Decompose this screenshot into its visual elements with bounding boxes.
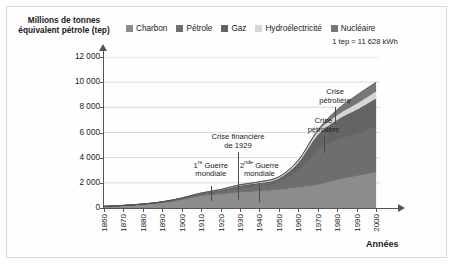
legend-swatch-icon: [255, 25, 262, 32]
x-tick-mark: [123, 208, 124, 212]
annotation-leader-line: [259, 186, 260, 202]
y-tick-label: 8 000: [80, 102, 101, 111]
y-tick-mark: [100, 107, 104, 108]
x-tick-mark: [162, 208, 163, 212]
chart-figure: Millions de tonnes équivalent pétrole (t…: [0, 0, 455, 267]
legend-item-p-trole: Pétrole: [176, 24, 212, 33]
annotation-leader-line: [238, 152, 239, 200]
y-tick-label: 4 000: [80, 153, 101, 162]
annotation-line-2: pétrolière: [308, 126, 340, 135]
annotation-leader-line: [211, 186, 212, 201]
x-tick-label: 1960: [294, 214, 303, 232]
y-tick-label: 6 000: [80, 128, 101, 137]
legend-item-label: Gaz: [231, 24, 246, 33]
y-tick-mark: [100, 133, 104, 134]
x-tick-label: 1980: [333, 214, 342, 232]
legend-item-nucl-aire: Nucléaire: [331, 24, 376, 33]
tep-conversion-note: 1 tep = 11 628 kWh: [300, 37, 430, 46]
x-tick-label: 1920: [217, 214, 226, 232]
x-tick-mark: [143, 208, 144, 212]
x-tick-mark: [298, 208, 299, 212]
x-tick-mark: [376, 208, 377, 212]
y-axis-unit: (tep): [92, 25, 110, 35]
annotation-line-2: mondiale: [240, 170, 279, 179]
annotation-line-2: pétrolière: [319, 97, 351, 106]
legend-swatch-icon: [331, 25, 338, 32]
x-tick-mark: [182, 208, 183, 212]
y-tick-label: 2 000: [80, 178, 101, 187]
annotation-crise-1929: Crise financièrede 1929: [212, 133, 265, 150]
legend-item-label: Charbon: [136, 24, 167, 33]
legend-item-gaz: Gaz: [221, 24, 246, 33]
y-tick-mark: [100, 57, 104, 58]
x-tick-label: 1870: [119, 214, 128, 232]
legend-item-label: Pétrole: [186, 24, 212, 33]
annotation-crise-petroliere-2: Crisepétrolière: [319, 88, 351, 105]
x-tick-mark: [240, 208, 241, 212]
y-tick-mark: [100, 82, 104, 83]
x-tick-label: 2000: [372, 214, 381, 232]
annotation-leader-line: [324, 136, 325, 153]
x-tick-mark: [221, 208, 222, 212]
legend-item-label: Nucléaire: [341, 24, 376, 33]
x-axis-tick-labels: 1860187018801890190019101920193019401950…: [104, 212, 380, 246]
x-tick-mark: [279, 208, 280, 212]
x-tick-label: 1890: [158, 214, 167, 232]
annotation-leader-line: [335, 107, 336, 124]
legend-swatch-icon: [176, 25, 183, 32]
x-tick-label: 1990: [353, 214, 362, 232]
annotation-guerre-1: 1re Guerremondiale: [193, 158, 228, 179]
x-tick-mark: [318, 208, 319, 212]
y-tick-label: 10 000: [75, 77, 100, 86]
x-tick-mark: [104, 208, 105, 212]
y-axis-tick-labels: 02 0004 0006 0008 00010 00012 000: [56, 57, 100, 208]
y-tick-mark: [100, 183, 104, 184]
annotation-line-2: de 1929: [212, 142, 265, 151]
annotation-line-2: mondiale: [193, 170, 228, 179]
x-tick-label: 1950: [275, 214, 284, 232]
x-tick-label: 1910: [197, 214, 206, 232]
x-axis-title: Années: [366, 239, 399, 249]
y-tick-mark: [100, 158, 104, 159]
legend-swatch-icon: [126, 25, 133, 32]
x-tick-mark: [357, 208, 358, 212]
x-tick-mark: [201, 208, 202, 212]
x-tick-mark: [337, 208, 338, 212]
x-tick-label: 1880: [139, 214, 148, 232]
legend-item-hydro-lectricit-: Hydroélectricité: [255, 24, 321, 33]
x-tick-mark: [259, 208, 260, 212]
x-tick-label: 1900: [178, 214, 187, 232]
chart-legend: CharbonPétroleGazHydroélectricitéNucléai…: [126, 24, 375, 33]
annotation-guerre-2: 2nde Guerremondiale: [240, 158, 279, 179]
legend-swatch-icon: [221, 25, 228, 32]
y-axis-title-text: Millions de tonnes équivalent pétrole: [18, 15, 100, 35]
legend-item-charbon: Charbon: [126, 24, 167, 33]
y-tick-mark: [100, 208, 104, 209]
x-tick-label: 1970: [314, 214, 323, 232]
x-axis-arrow-icon: [398, 204, 405, 212]
x-tick-label: 1930: [236, 214, 245, 232]
x-tick-label: 1940: [255, 214, 264, 232]
x-tick-label: 1860: [100, 214, 109, 232]
y-tick-label: 12 000: [75, 52, 100, 61]
y-axis-title: Millions de tonnes équivalent pétrole (t…: [18, 15, 110, 35]
y-axis-arrow-icon: [99, 44, 107, 51]
legend-item-label: Hydroélectricité: [265, 24, 321, 33]
